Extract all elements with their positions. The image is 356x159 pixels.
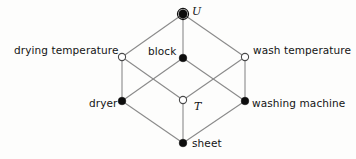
edge-block-washing-machine [183,58,245,101]
node-washing-machine[interactable] [241,97,249,105]
node-block[interactable] [179,54,187,62]
node-wash-temperature[interactable] [241,53,248,60]
node-label-dryer: dryer [89,98,117,109]
edge-u-wash-temperature [183,14,245,57]
node-label-drying-temperature: drying temperature [14,45,119,56]
node-dryer[interactable] [118,97,126,105]
lattice-diagram: U drying temperature block wash temperat… [0,0,356,159]
node-t[interactable] [179,96,186,103]
node-u[interactable] [179,10,187,18]
node-label-washing-machine: washing machine [252,98,345,109]
node-label-block: block [148,46,176,57]
edge-drying-temperature-t [122,57,183,100]
node-label-sheet: sheet [192,138,222,149]
edge-wash-temperature-t [183,57,245,100]
edge-block-dryer [122,58,183,101]
node-drying-temperature[interactable] [118,53,125,60]
edge-dryer-sheet [122,101,183,143]
lattice-graphics [0,0,356,159]
node-label-wash-temperature: wash temperature [253,45,351,56]
node-sheet[interactable] [179,139,187,147]
edge-group [122,14,245,143]
node-label-u: U [192,6,201,17]
node-label-t: T [194,101,201,112]
